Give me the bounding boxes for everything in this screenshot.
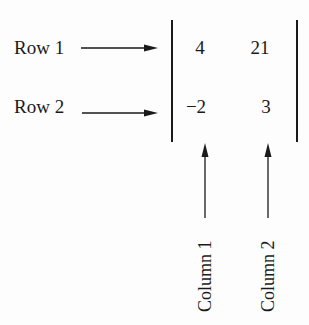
row-1-arrow-icon xyxy=(81,45,158,52)
column-1-label: Column 1 xyxy=(196,240,214,312)
column-2-arrow-icon xyxy=(265,143,272,218)
column-1-arrow-icon xyxy=(202,143,209,218)
row-2-arrow-icon xyxy=(82,110,158,117)
column-2-label: Column 2 xyxy=(259,240,277,312)
